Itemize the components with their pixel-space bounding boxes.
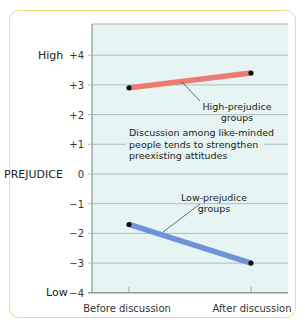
- y-high-label: High: [38, 49, 63, 62]
- chart: +4+3+2+10−1−2−3−4 Before discussionAfter…: [0, 0, 305, 330]
- data-point: [248, 261, 253, 266]
- y-tick-label: 0: [78, 169, 84, 180]
- annotation-low: groups: [198, 203, 231, 214]
- y-tick-label: +2: [69, 110, 84, 121]
- x-tick-label: After discussion: [212, 303, 291, 314]
- y-tick-label: +4: [69, 50, 84, 61]
- y-low-label: Low: [46, 286, 68, 299]
- data-point: [248, 70, 253, 75]
- y-axis-label: PREJUDICE: [4, 168, 63, 181]
- annotation-main: preexisting attitudes: [129, 150, 227, 161]
- y-tick-label: −2: [69, 228, 84, 239]
- y-tick-label: −3: [69, 258, 84, 269]
- y-axis-ticks: +4+3+2+10−1−2−3−4: [69, 50, 84, 299]
- y-tick-label: +1: [69, 139, 84, 150]
- annotation-low: Low-prejudice: [181, 192, 247, 203]
- data-point: [126, 85, 131, 90]
- data-point: [126, 222, 131, 227]
- annotation-high: High-prejudice: [202, 101, 271, 112]
- y-tick-label: −1: [69, 199, 84, 210]
- annotation-high: groups: [221, 112, 254, 123]
- annotation-main: Discussion among like-minded: [129, 127, 274, 138]
- annotation-main: people tends to strengthen: [129, 139, 258, 150]
- x-tick-label: Before discussion: [83, 303, 171, 314]
- y-tick-label: +3: [69, 80, 84, 91]
- y-tick-label: −4: [69, 288, 84, 299]
